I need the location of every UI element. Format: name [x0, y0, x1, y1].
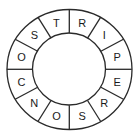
segment-letter: R — [78, 17, 86, 29]
segment-letter: O — [52, 110, 61, 122]
segment-letter: S — [31, 29, 38, 41]
segment-letter: P — [113, 51, 120, 63]
segment-divider — [88, 100, 101, 121]
segment-letter: E — [113, 76, 120, 88]
segment-letter: N — [30, 97, 38, 109]
segment-letter: I — [103, 29, 106, 41]
segment-letter: C — [18, 76, 26, 88]
segment-letter: O — [17, 51, 26, 63]
segment-divider — [38, 100, 51, 121]
letter-wheel-diagram: TRIPERSONCOS — [0, 0, 140, 136]
segment-divider — [38, 17, 51, 38]
segment-letter: R — [100, 97, 108, 109]
segment-letter: T — [53, 17, 60, 29]
segment-letter: S — [78, 110, 85, 122]
segment-divider — [88, 17, 101, 38]
inner-circle — [33, 33, 106, 105]
